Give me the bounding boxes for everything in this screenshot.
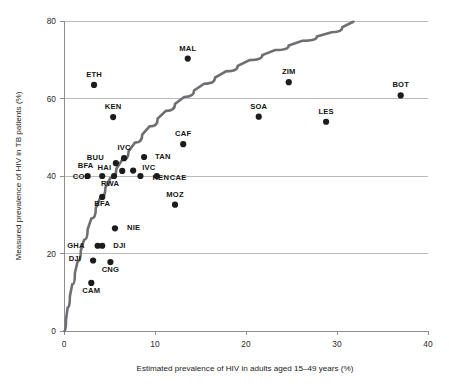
point-label-nie-20: NIE [127, 223, 140, 232]
point-label-dji-22: DJI [113, 241, 125, 250]
y-axis-title: Measured prevalence of HIV in TB patient… [14, 91, 23, 260]
point-label-bot-3: BOT [392, 80, 409, 89]
point-label-hai-11: HAI [98, 163, 112, 172]
data-point-ken-15[interactable] [137, 173, 143, 179]
data-point-ivc-12[interactable] [130, 167, 136, 173]
data-point-zim-2[interactable] [286, 79, 292, 85]
chart-container: 020406080 010203040 ETHMALZIMBOTKENSOALE… [0, 0, 449, 387]
point-label-bfa-18: BFA [94, 199, 110, 208]
y-tick-label-40: 40 [47, 171, 57, 181]
x-tick-label-0: 0 [62, 339, 67, 349]
scatter-plot: 020406080 010203040 ETHMALZIMBOTKENSOALE… [0, 0, 449, 387]
point-label-mal-1: MAL [179, 44, 196, 53]
data-point-eth-0[interactable] [91, 82, 97, 88]
x-tick-labels-group: 010203040 [62, 339, 433, 349]
point-label-dji-23: DJI [69, 254, 81, 263]
x-tick-label-10: 10 [150, 339, 160, 349]
point-label-eth-0: ETH [86, 70, 102, 79]
point-label-ken-4: KEN [105, 102, 122, 111]
data-point-ken-4[interactable] [110, 114, 116, 120]
point-label-caf-7: CAF [175, 129, 191, 138]
point-label-ivc-12: IVC [142, 163, 156, 172]
point-label-tan-10: TAN [155, 152, 171, 161]
point-label-rwa-17: RWA [101, 179, 119, 188]
data-point-bot-3[interactable] [398, 92, 404, 98]
point-label-cae-16: CAE [170, 173, 187, 182]
data-point-dji-22[interactable] [99, 243, 105, 249]
data-point-cae-16[interactable] [154, 173, 160, 179]
data-point-tan-10[interactable] [141, 154, 147, 160]
x-tick-label-30: 30 [332, 339, 342, 349]
data-point-mal-1[interactable] [185, 55, 191, 61]
y-tick-label-0: 0 [51, 326, 56, 336]
data-point-soa-5[interactable] [256, 114, 262, 120]
data-point-les-6[interactable] [323, 119, 329, 125]
data-point-moz-19[interactable] [172, 202, 178, 208]
y-tick-label-60: 60 [47, 94, 57, 104]
point-label-soa-5: SOA [250, 102, 267, 111]
data-point-buu-9[interactable] [113, 160, 119, 166]
data-point-hai-11[interactable] [119, 168, 125, 174]
data-point-caf-7[interactable] [180, 141, 186, 147]
point-label-les-6: LES [318, 107, 333, 116]
point-label-ivc-8: IVC [117, 143, 131, 152]
point-label-zim-2: ZIM [282, 67, 296, 76]
point-label-moz-19: MOZ [166, 190, 184, 199]
point-label-bfa-13: BFA [78, 161, 94, 170]
data-point-nie-20[interactable] [112, 225, 118, 231]
data-point-ivc-8[interactable] [121, 155, 127, 161]
data-point-dji-23[interactable] [90, 257, 96, 263]
x-tick-label-20: 20 [241, 339, 251, 349]
point-label-cng-24: CNG [102, 265, 119, 274]
point-label-cod-14: COD [73, 172, 91, 181]
x-axis-title: Estimated prevalence of HIV in adults ag… [137, 364, 354, 373]
point-label-gha-21: GHA [67, 241, 85, 250]
x-tick-label-40: 40 [423, 339, 433, 349]
y-tick-label-80: 80 [47, 16, 57, 26]
data-points-group: ETHMALZIMBOTKENSOALESCAFIVCBUUTANHAIIVCB… [67, 44, 409, 295]
y-tick-labels-group: 020406080 [47, 16, 57, 336]
y-tick-label-20: 20 [47, 249, 57, 259]
point-label-cam-25: CAM [82, 286, 100, 295]
gridlines-group [64, 21, 428, 254]
